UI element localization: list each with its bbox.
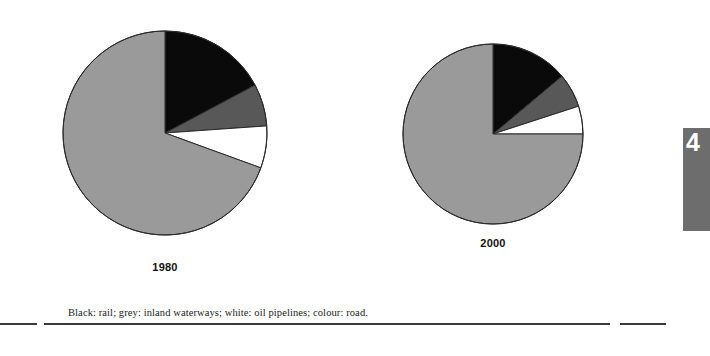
pie-svg-2000	[401, 42, 585, 226]
legend-note: Black: rail; grey: inland waterways; whi…	[68, 307, 368, 318]
page-side-tab: 4	[683, 128, 710, 231]
horizontal-rule-main	[44, 323, 610, 325]
figure-area: 1980 2000 Black: rail; grey: inland wate…	[0, 0, 710, 356]
page-number-label: 4	[686, 130, 700, 155]
pie-chart-1980: 1980	[61, 29, 269, 273]
horizontal-rule-left	[0, 323, 37, 325]
pie-chart-2000: 2000	[401, 42, 585, 249]
pie-svg-1980	[61, 29, 269, 237]
pie-label-1980: 1980	[61, 261, 269, 273]
pie-label-2000: 2000	[401, 237, 585, 249]
horizontal-rule-right	[620, 323, 666, 325]
